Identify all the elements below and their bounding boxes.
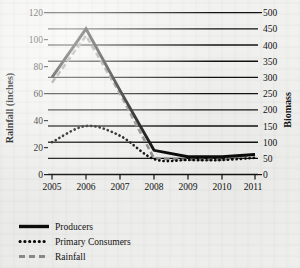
right-tick-400: 400: [263, 41, 278, 51]
left-tick-40: 40: [34, 116, 44, 126]
left-axis-title: Rainfall (inches): [4, 73, 16, 143]
right-tick-300: 300: [263, 73, 278, 83]
x-tick-2007: 2007: [111, 182, 130, 192]
x-tick-2005: 2005: [43, 182, 62, 192]
right-tick-450: 450: [263, 24, 278, 34]
x-axis-tick-labels: 2005 2006 2007 2008 2009 2010 2011: [43, 182, 263, 192]
right-tick-350: 350: [263, 57, 278, 67]
series-line-rainfall: [52, 36, 255, 160]
x-tick-2010: 2010: [213, 182, 232, 192]
right-axis-title: Biomass: [282, 92, 293, 128]
left-tick-20: 20: [34, 143, 44, 153]
x-tick-2006: 2006: [77, 182, 96, 192]
series-line-producers: [52, 29, 255, 157]
legend-label-rainfall: Rainfall: [55, 252, 86, 262]
left-tick-60: 60: [34, 89, 44, 99]
right-tick-150: 150: [263, 122, 278, 132]
right-tick-50: 50: [263, 154, 273, 164]
legend-label-primary-consumers: Primary Consumers: [55, 237, 131, 247]
left-tick-120: 120: [29, 8, 44, 18]
chart-legend: Producers Primary Consumers Rainfall: [19, 222, 131, 262]
x-tick-2009: 2009: [179, 182, 198, 192]
right-tick-200: 200: [263, 105, 278, 115]
left-tick-100: 100: [29, 35, 44, 45]
x-tick-2011: 2011: [244, 182, 263, 192]
right-tick-250: 250: [263, 89, 278, 99]
left-axis-tick-labels: 120 100 80 60 40 20 0: [29, 8, 44, 180]
left-tick-0: 0: [38, 170, 43, 180]
legend-label-producers: Producers: [55, 222, 93, 232]
horizontal-gridlines: [48, 13, 258, 159]
left-tick-80: 80: [34, 62, 44, 72]
right-tick-500: 500: [263, 8, 278, 18]
x-tick-2008: 2008: [145, 182, 164, 192]
rainfall-biomass-line-chart: Rainfall (inches) Biomass 120 100 80 60 …: [0, 0, 300, 268]
right-axis-tick-labels: 500 450 400 350 300 250 200 150 100 50 0: [263, 8, 278, 180]
right-tick-0: 0: [263, 170, 268, 180]
right-tick-100: 100: [263, 138, 278, 148]
